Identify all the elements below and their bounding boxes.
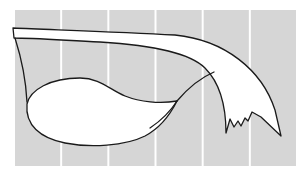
background-stripe <box>157 10 202 166</box>
diagram-figure <box>0 0 308 183</box>
